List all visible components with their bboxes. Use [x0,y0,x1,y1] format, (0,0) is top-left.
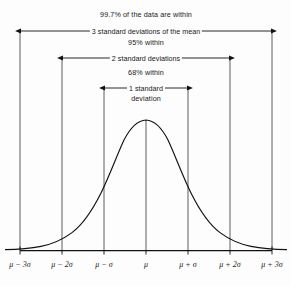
annotation-two-sigma-line1: 95% within [128,38,164,48]
x-tick-label-minus-3sigma: μ − 3σ [9,260,30,269]
annotation-three-sigma-line1: 99.7% of the data are within [100,10,192,20]
x-tick-label-plus-1sigma: μ + σ [179,260,196,269]
annotation-one-sigma-line3: deviation [131,94,161,104]
annotation-three-sigma-line2: 3 standard deviations of the mean [90,27,202,36]
guide-lines [20,31,272,250]
x-tick-label-plus-2sigma: μ + 2σ [219,260,240,269]
x-tick-label-plus-3sigma: μ + 3σ [261,260,282,269]
x-axis-ticks [62,251,230,255]
annotation-two-sigma-line2: 2 standard deviations [110,54,182,63]
x-tick-label-minus-2sigma: μ − 2σ [51,260,72,269]
x-tick-label-minus-1sigma: μ − σ [95,260,112,269]
annotation-one-sigma-line1: 68% within [128,68,164,78]
annotation-one-sigma-line2: 1 standard [127,84,165,93]
normal-distribution-figure: 99.7% of the data are within 3 standard … [0,0,291,286]
x-tick-label-mean: μ [144,260,148,269]
